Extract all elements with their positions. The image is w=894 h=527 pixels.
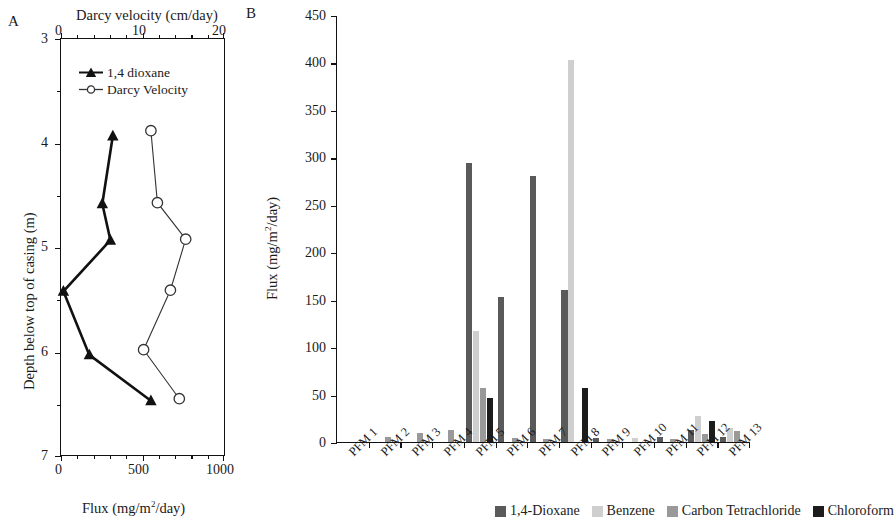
bar: [561, 290, 567, 442]
bar: [480, 388, 486, 442]
panel-b-y-tick: [331, 206, 337, 207]
legend-swatch-icon: [495, 506, 506, 517]
filled-triangle-icon: [78, 66, 104, 79]
bar: [530, 176, 536, 442]
panel-a-y-tick-7: 7: [41, 449, 48, 463]
panel-b-y-tick-label: 50: [292, 389, 326, 403]
data-point: [174, 394, 184, 404]
legend-item-darcy: Darcy Velocity: [78, 81, 188, 98]
data-point: [165, 285, 175, 295]
data-point: [97, 198, 108, 209]
panel-a-plot-area: [60, 38, 225, 456]
panel-b-letter: B: [246, 6, 256, 21]
panel-a-bottom-axis-title: Flux (mg/m2/day): [82, 500, 185, 515]
panel-a-y-tick-4: 4: [41, 136, 48, 150]
panel-b-y-tick: [331, 443, 337, 444]
panel-b-y-tick: [331, 158, 337, 159]
legend-label-dioxane: 1,4 dioxane: [107, 64, 170, 81]
legend-item: Carbon Tetrachloride: [667, 503, 801, 519]
panel-a-legend: 1,4 dioxane Darcy Velocity: [78, 64, 188, 98]
panel-b-legend: 1,4-DioxaneBenzeneCarbon TetrachlorideCh…: [495, 503, 894, 519]
legend-label: 1,4-Dioxane: [510, 503, 580, 519]
panel-b-y-tick-label: 150: [292, 294, 326, 308]
legend-label-darcy: Darcy Velocity: [107, 81, 188, 98]
data-point: [107, 130, 118, 141]
data-point: [152, 198, 162, 208]
panel-b-plot-area: [336, 16, 749, 443]
data-point: [105, 234, 116, 245]
bar: [473, 331, 479, 442]
panel-a: A Darcy velocity (cm/day) 0 10 20 3 4 5 …: [0, 0, 240, 527]
panel-b-y-tick: [331, 253, 337, 254]
panel-a-bottom-tick-0: 0: [55, 463, 62, 477]
data-point: [146, 126, 156, 136]
panel-a-letter: A: [8, 14, 19, 29]
bar: [568, 60, 574, 442]
legend-swatch-icon: [667, 506, 678, 517]
panel-a-bottom-tick-500: 500: [128, 463, 149, 477]
panel-b-y-tick: [331, 16, 337, 17]
panel-b: B Flux (mg/m2/day) 050100150200250300350…: [240, 0, 761, 527]
panel-b-y-tick-label: 200: [292, 246, 326, 260]
legend-swatch-icon: [592, 506, 603, 517]
panel-b-y-tick-label: 300: [292, 151, 326, 165]
panel-b-y-tick: [331, 348, 337, 349]
legend-item: Benzene: [592, 503, 655, 519]
panel-b-y-tick-label: 250: [292, 199, 326, 213]
panel-a-y-tick-3: 3: [41, 32, 48, 46]
panel-b-y-tick: [331, 63, 337, 64]
legend-item-dioxane: 1,4 dioxane: [78, 64, 188, 81]
legend-item: Chloroform: [813, 503, 894, 519]
legend-swatch-icon: [813, 506, 824, 517]
legend-label: Chloroform: [828, 503, 894, 519]
panel-b-y-tick: [331, 396, 337, 397]
bar: [498, 297, 504, 442]
panel-b-y-tick: [331, 301, 337, 302]
panel-b-y-tick-label: 400: [292, 56, 326, 70]
panel-a-y-axis-title: Depth below top of casing (m): [22, 212, 37, 390]
panel-a-top-tick-10: 10: [132, 24, 146, 38]
panel-a-y-tick-6: 6: [41, 345, 48, 359]
panel-a-y-tick-5: 5: [41, 240, 48, 254]
panel-a-bottom-tick-1000: 1000: [206, 463, 234, 477]
legend-label: Benzene: [607, 503, 655, 519]
data-point: [181, 234, 191, 244]
data-point: [84, 349, 95, 360]
series-line-darcy-velocity: [144, 131, 186, 399]
data-point: [138, 345, 148, 355]
panel-a-series-layer: [61, 39, 224, 456]
open-circle-icon: [78, 83, 104, 96]
panel-b-y-tick: [331, 111, 337, 112]
legend-label: Carbon Tetrachloride: [682, 503, 801, 519]
panel-b-y-tick-label: 450: [292, 9, 326, 23]
panel-b-y-tick-label: 100: [292, 341, 326, 355]
panel-b-y-axis-title: Flux (mg/m2/day): [264, 197, 279, 300]
bar: [466, 163, 472, 442]
legend-item: 1,4-Dioxane: [495, 503, 580, 519]
panel-a-top-axis-title: Darcy velocity (cm/day): [76, 8, 218, 23]
panel-b-y-tick-label: 350: [292, 104, 326, 118]
panel-b-y-tick-label: 0: [292, 436, 326, 450]
series-line-1-4-dioxane: [63, 136, 150, 401]
